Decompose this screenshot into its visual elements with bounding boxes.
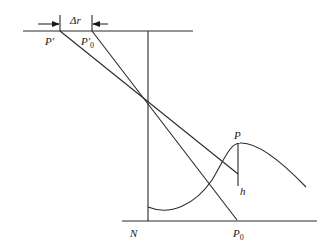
- ray-p-prime-to-h: [60, 31, 238, 174]
- label-p-zero: P0: [232, 227, 244, 242]
- label-p-zero-sub: 0: [240, 233, 244, 242]
- label-p-prime: P': [44, 35, 55, 47]
- label-delta-r: Δr: [69, 14, 81, 26]
- geometry-diagram: P' P'0 Δr P h N P0: [0, 0, 333, 252]
- label-p-prime-zero: P'0: [80, 35, 94, 50]
- wave-curve: [148, 143, 306, 210]
- label-h: h: [240, 185, 246, 197]
- label-p-prime-zero-sub: 0: [90, 41, 94, 50]
- ray-p-prime-zero-to-p-zero: [92, 31, 237, 220]
- label-n: N: [129, 227, 138, 239]
- label-p: P: [233, 129, 241, 141]
